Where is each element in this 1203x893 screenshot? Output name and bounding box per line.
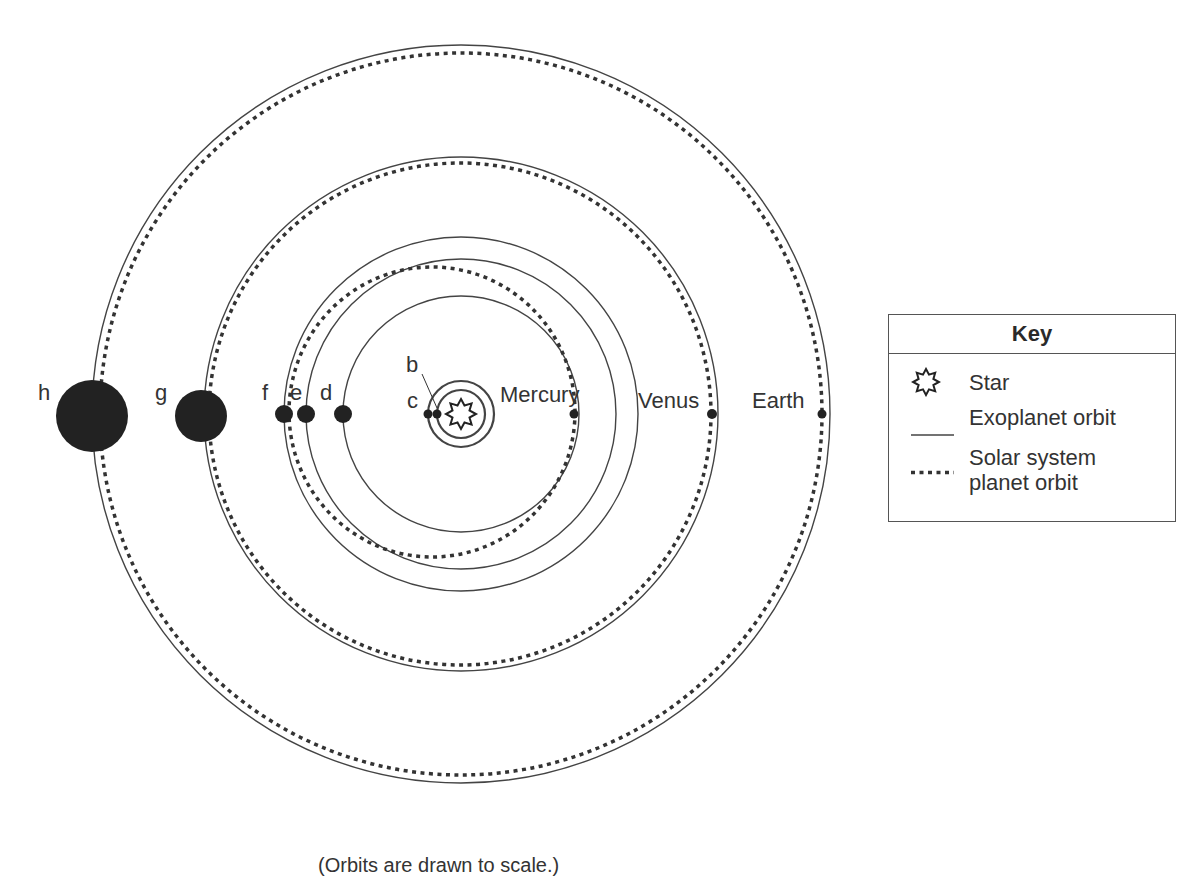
label-earth: Earth	[752, 388, 805, 413]
label-e: e	[290, 380, 302, 405]
solid-line-icon	[911, 417, 956, 443]
planet-e	[297, 405, 315, 423]
label-f: f	[262, 380, 269, 405]
label-g: g	[155, 380, 167, 405]
planet-f	[275, 405, 293, 423]
key-label-solar-orbit-line1: Solar system	[969, 445, 1096, 470]
planet-c	[424, 410, 433, 419]
label-c: c	[407, 388, 418, 413]
key-label-solar-orbit-line2: planet orbit	[969, 470, 1078, 495]
key-legend: Key Star Exoplanet orbit Solar system pl…	[888, 314, 1176, 522]
planet-earth	[818, 410, 827, 419]
star-icon	[446, 399, 476, 429]
planet-mercury	[570, 410, 579, 419]
key-label-exoplanet-orbit: Exoplanet orbit	[969, 405, 1116, 430]
dotted-line-icon	[911, 455, 956, 481]
label-mercury: Mercury	[500, 382, 579, 407]
label-b: b	[406, 352, 418, 377]
key-label-star: Star	[969, 370, 1009, 395]
label-h: h	[38, 380, 50, 405]
planet-b	[433, 410, 442, 419]
label-venus: Venus	[638, 388, 699, 413]
planet-g	[175, 390, 227, 442]
planet-d	[334, 405, 352, 423]
planet-venus	[707, 409, 717, 419]
label-d: d	[320, 380, 332, 405]
key-title: Key	[889, 315, 1175, 354]
caption: (Orbits are drawn to scale.)	[318, 854, 559, 877]
planet-h	[56, 380, 128, 452]
star-icon	[911, 367, 956, 403]
